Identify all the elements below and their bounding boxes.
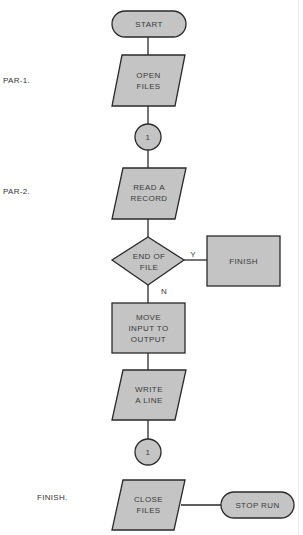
svg-text:OPEN: OPEN bbox=[136, 71, 160, 80]
svg-text:OUTPUT: OUTPUT bbox=[131, 335, 166, 344]
svg-text:CLOSE: CLOSE bbox=[134, 495, 163, 504]
svg-text:WRITE: WRITE bbox=[135, 385, 163, 394]
svg-text:FINISH: FINISH bbox=[229, 257, 258, 266]
svg-text:STOP RUN: STOP RUN bbox=[235, 501, 279, 510]
node-end-of-file-decision: END OF FILE bbox=[112, 237, 184, 285]
node-close-files: CLOSE FILES bbox=[112, 480, 185, 530]
svg-text:A LINE: A LINE bbox=[135, 396, 162, 405]
node-write-line: WRITE A LINE bbox=[112, 370, 186, 420]
svg-text:FILES: FILES bbox=[136, 82, 160, 91]
edge-label-yes: Y bbox=[190, 250, 196, 259]
node-move-input: MOVE INPUT TO OUTPUT bbox=[112, 303, 185, 353]
svg-text:MOVE: MOVE bbox=[136, 313, 161, 322]
svg-text:FILES: FILES bbox=[136, 506, 160, 515]
node-open-files: OPEN FILES bbox=[112, 55, 185, 106]
node-read-record: READ A RECORD bbox=[112, 168, 186, 219]
svg-text:FILE: FILE bbox=[140, 263, 159, 272]
node-connector-top: 1 bbox=[135, 124, 161, 150]
svg-text:START: START bbox=[135, 20, 162, 29]
node-connector-bottom: 1 bbox=[135, 439, 161, 465]
flowchart: START OPEN FILES 1 READ A RECORD END OF … bbox=[0, 0, 303, 535]
svg-text:1: 1 bbox=[146, 448, 151, 457]
node-start: START bbox=[112, 11, 186, 37]
svg-text:END OF: END OF bbox=[133, 252, 166, 261]
svg-text:RECORD: RECORD bbox=[130, 194, 167, 203]
edge-label-no: N bbox=[161, 287, 167, 296]
svg-text:INPUT TO: INPUT TO bbox=[128, 324, 168, 333]
svg-text:READ A: READ A bbox=[133, 183, 165, 192]
node-finish: FINISH bbox=[207, 236, 280, 286]
node-stop-run: STOP RUN bbox=[221, 492, 294, 518]
svg-text:1: 1 bbox=[146, 133, 151, 142]
